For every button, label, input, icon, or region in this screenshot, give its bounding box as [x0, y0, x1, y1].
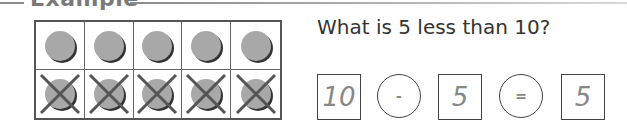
question-text: What is 5 less than 10?	[317, 15, 550, 39]
header-rule-right	[130, 2, 627, 4]
ten-frame-cell	[231, 70, 280, 118]
ten-frame	[34, 20, 282, 120]
ten-frame-cell	[36, 22, 85, 70]
ten-frame-cell	[36, 70, 85, 118]
counter-icon	[94, 31, 124, 61]
crossed-counter-icon	[241, 79, 271, 109]
counter-icon	[191, 31, 221, 61]
counter-icon	[45, 31, 75, 61]
ten-frame-cell	[134, 70, 183, 118]
cross-mark-icon	[136, 73, 178, 115]
crossed-counter-icon	[45, 79, 75, 109]
crossed-counter-icon	[142, 79, 172, 109]
ten-frame-cell	[85, 22, 134, 70]
operand1-box: 10	[317, 74, 361, 120]
operator-circle: -	[377, 74, 421, 118]
counter-icon	[142, 31, 172, 61]
header-rule-left	[0, 2, 24, 4]
cross-mark-icon	[185, 73, 227, 115]
ten-frame-cell	[182, 70, 231, 118]
operand2-box: 5	[438, 74, 482, 120]
result-box: 5	[561, 74, 605, 120]
section-title: Example	[30, 0, 139, 11]
ten-frame-cell	[182, 22, 231, 70]
ten-frame-cell	[85, 70, 134, 118]
ten-frame-cell	[231, 22, 280, 70]
equals-circle: =	[499, 74, 543, 118]
crossed-counter-icon	[191, 79, 221, 109]
ten-frame-cell	[134, 22, 183, 70]
cross-mark-icon	[39, 73, 81, 115]
crossed-counter-icon	[94, 79, 124, 109]
cross-mark-icon	[88, 73, 130, 115]
cross-mark-icon	[235, 73, 277, 115]
counter-icon	[241, 31, 271, 61]
